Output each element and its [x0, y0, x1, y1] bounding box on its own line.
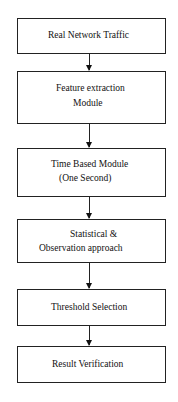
arrow-down-icon [89, 123, 90, 147]
node-label: Time Based Module [18, 149, 165, 171]
node-label: Result Verification [18, 347, 165, 371]
node-label: Statistical & [18, 220, 165, 241]
arrow-down-icon [89, 262, 90, 288]
node-result-verification: Result Verification [17, 346, 166, 383]
node-label: Threshold Selection [18, 290, 165, 314]
node-feature-extraction: Feature extraction Module [17, 71, 166, 124]
node-time-based-module: Time Based Module (One Second) [17, 148, 166, 197]
node-label: Module [18, 95, 165, 110]
arrow-down-icon [89, 53, 90, 70]
node-label: Observation approach [18, 241, 165, 255]
node-label: (One Second) [18, 171, 165, 185]
arrow-down-icon [89, 196, 90, 218]
node-threshold-selection: Threshold Selection [17, 289, 166, 326]
arrow-down-icon [89, 325, 90, 345]
node-label: Feature extraction [18, 72, 165, 95]
node-label: Real Network Traffic [18, 19, 165, 42]
node-statistical-observation: Statistical & Observation approach [17, 219, 166, 263]
node-real-network-traffic: Real Network Traffic [17, 18, 166, 54]
